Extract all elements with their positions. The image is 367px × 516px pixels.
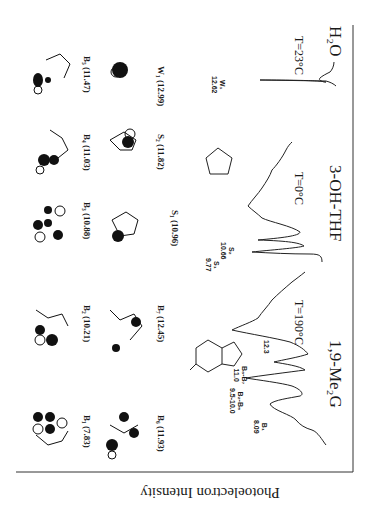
- peak-label-12-3: 12.3: [262, 340, 270, 354]
- orbital-label-w1: W₁ (12.99): [156, 66, 166, 106]
- compound-label-1-9-me2g: 1,9-Me₂G: [325, 340, 345, 408]
- orbital-label-b3: B₃ (10.88): [82, 202, 92, 239]
- spectrum-3-oh-thf: [248, 142, 322, 262]
- peak-label-w1: W₁ 12.62: [210, 76, 226, 94]
- orbital-diagram-b1: [28, 405, 78, 460]
- orbital-diagram-s2: [100, 120, 150, 170]
- peak-label-b6-b7: B₆-B₇ 11.0: [232, 366, 248, 384]
- orbital-label-b5: B₅ (11.47): [82, 56, 92, 93]
- temperature-1-9-me2g: T=190°C: [291, 300, 306, 345]
- orbital-label-b1: B₁ (7.83): [82, 415, 92, 448]
- compound-label-h2o: H₂O: [325, 26, 345, 56]
- axis-title-photoelectron-intensity: Photoelectron Intensity: [100, 484, 320, 501]
- structure-3-oh-thf: [196, 138, 246, 198]
- temperature-3-oh-thf: T=0°C: [291, 172, 306, 205]
- orbital-diagram-b5: [28, 40, 78, 95]
- orbital-diagram-b4: [28, 120, 78, 175]
- orbital-diagram-b2: [28, 300, 78, 355]
- orbital-diagram-w1: [100, 50, 150, 90]
- orbital-label-s1: S₁ (10.96): [170, 210, 180, 246]
- orbital-label-s2: S₂ (11.82): [156, 134, 166, 170]
- compound-label-3-oh-thf: 3-OH-THF: [325, 165, 345, 242]
- temperature-h2o: T=23°C: [291, 36, 306, 75]
- orbital-diagram-b7: [100, 300, 150, 355]
- orbital-label-b2: B₂ (10.21): [82, 305, 92, 342]
- peak-label-s2: S₂ 10.66: [219, 242, 235, 260]
- orbital-diagram-b3: [28, 195, 78, 255]
- orbital-label-b6: B₆ (11.93): [156, 415, 166, 452]
- orbital-label-b7: B₇ (12.45): [156, 305, 166, 342]
- orbital-diagram-b6: [100, 405, 150, 460]
- orbital-label-b4: B₄ (11.03): [82, 134, 92, 171]
- peak-label-s1: S₁ 9.77: [204, 258, 220, 272]
- peak-label-b2-b5: B₂-B₅ 9.5-10.0: [228, 388, 244, 414]
- orbital-diagram-s1: [100, 200, 150, 250]
- peak-label-b1: B₁ 8.09: [252, 420, 268, 434]
